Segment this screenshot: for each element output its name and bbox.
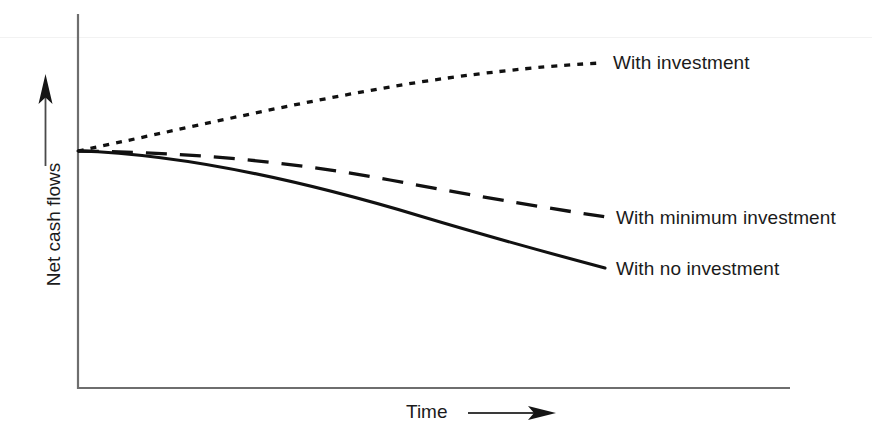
- series-label-with-no-investment: With no investment: [616, 259, 779, 278]
- series-label-with-investment: With investment: [613, 53, 750, 72]
- series-label-with-minimum-investment: With minimum investment: [616, 208, 836, 227]
- series-line-with-no-investment: [78, 151, 605, 268]
- x-axis-right-arrow-icon: [468, 406, 556, 420]
- chart-container: With investment With minimum investment …: [0, 0, 872, 445]
- x-axis-title: Time: [406, 402, 448, 421]
- y-axis-title: Net cash flows: [44, 145, 63, 305]
- series-line-with-investment: [78, 63, 601, 151]
- series-line-with-minimum-investment: [78, 151, 606, 217]
